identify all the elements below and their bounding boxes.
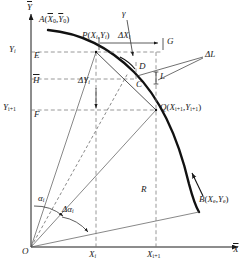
y-tick-Yi: Yi — [9, 45, 16, 55]
alpha-label: αi — [38, 194, 44, 204]
y-tick-Yi1: Yi+1 — [3, 103, 16, 113]
point-label-F: F — [34, 110, 40, 119]
point-label-H: H — [33, 76, 40, 85]
radius-OD-dashed — [31, 73, 128, 247]
point-Q-dot — [155, 109, 157, 111]
alpha-arc — [34, 206, 63, 216]
delta-alpha-arc — [62, 217, 88, 232]
point-label-B: B(Xe,Ye) — [199, 195, 229, 205]
segment-L — [154, 72, 159, 84]
x-axis-label: X — [233, 245, 239, 254]
radius-label: R — [141, 185, 147, 194]
B-leader — [192, 173, 203, 196]
delta-alpha-label: Δαi — [62, 205, 74, 215]
delta-L-leaders — [137, 57, 203, 80]
radius-OB — [31, 212, 199, 247]
point-label-E: E — [34, 51, 40, 60]
point-label-G: G — [167, 37, 174, 46]
y-axis-label: Y — [27, 3, 32, 12]
angle-arcs — [34, 206, 88, 232]
point-label-P: P(Xi,Yi) — [82, 31, 110, 41]
arc-AB — [48, 30, 199, 212]
delta-L-leader-to-D — [137, 57, 203, 76]
origin-label: O — [22, 247, 29, 256]
B-leader-arrow — [192, 173, 203, 196]
delta-L-label: ΔL — [205, 50, 215, 59]
gamma-label: γ — [122, 9, 126, 18]
point-label-A: A(X0,Y0) — [39, 15, 69, 25]
delta-y-label: ΔYi — [78, 76, 90, 86]
x-tick-Xi: Xi — [89, 250, 96, 260]
point-P-dot — [95, 51, 97, 53]
radius-OQ — [31, 110, 156, 247]
point-label-Q: Q(Xi+1,Yi+1) — [160, 103, 201, 113]
point-label-L: L — [160, 72, 165, 81]
x-tick-Xi1: Xi+1 — [147, 250, 160, 260]
point-label-C: C — [136, 80, 142, 89]
figure-canvas: Y X O Yi Yi+1 Xi Xi+1 A(X0,Y0) P(Xi,Yi) … — [0, 0, 249, 264]
delta-x-label: ΔXi — [118, 31, 130, 41]
point-label-D: D — [139, 62, 146, 71]
radii-group — [31, 52, 199, 247]
